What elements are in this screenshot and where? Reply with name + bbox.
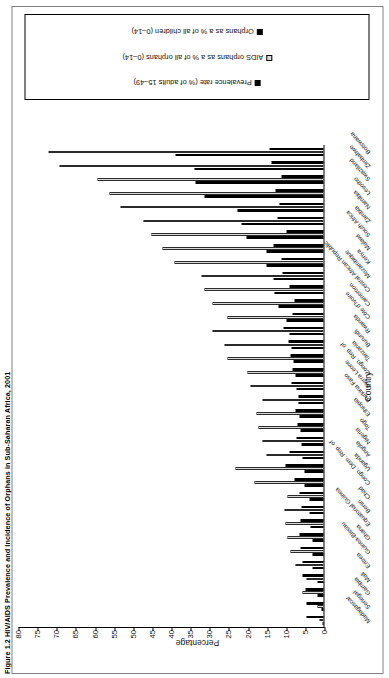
legend-swatch-icon: [256, 29, 262, 35]
bar-1: [250, 385, 323, 388]
y-axis-tick: [171, 627, 172, 631]
plot-wrapper: Percentage 05101520253035404550556065707…: [18, 105, 376, 665]
bar-group: [18, 283, 323, 297]
bar-0: [317, 581, 324, 584]
bar-group: [18, 310, 323, 324]
bar-group: [18, 489, 323, 503]
rotated-figure-canvas: Figure 1.2 HIV/AIDS Prevalence and Incid…: [0, 0, 389, 678]
bar-1: [306, 578, 323, 581]
bar-2: [294, 478, 323, 481]
y-tick-label: 75: [33, 630, 41, 638]
figure-page: Figure 1.2 HIV/AIDS Prevalence and Incid…: [0, 0, 389, 678]
bar-0: [291, 347, 323, 350]
bar-group: [18, 503, 323, 517]
y-axis-tick: [305, 627, 306, 631]
bar-1: [48, 151, 323, 154]
bar-1: [151, 233, 323, 236]
bar-1: [235, 467, 323, 470]
y-axis-tick: [56, 627, 57, 631]
bar-0: [312, 539, 323, 542]
bar-0: [246, 236, 323, 239]
y-tick-label: 70: [52, 630, 60, 638]
y-axis-tick: [133, 627, 134, 631]
bar-0: [278, 305, 323, 308]
bar-0: [293, 360, 323, 363]
bar-0: [286, 319, 323, 322]
bar-2: [277, 217, 323, 220]
bar-1: [212, 330, 323, 333]
bar-0: [312, 567, 323, 570]
bar-2: [295, 409, 323, 412]
bar-1: [287, 495, 323, 498]
y-tick-label: 20: [244, 630, 252, 638]
bar-0: [296, 388, 323, 391]
bar-2: [289, 451, 323, 454]
y-axis-tick: [114, 627, 115, 631]
bar-group: [18, 338, 323, 352]
bar-2: [297, 423, 323, 426]
bar-1: [224, 344, 323, 347]
legend-swatch-icon: [265, 54, 271, 60]
y-axis-tick: [209, 627, 210, 631]
bar-group: [18, 269, 323, 283]
y-tick-label: 40: [167, 630, 175, 638]
legend-label: Orphans as a % of all children (0–14): [131, 27, 253, 36]
bar-1: [254, 481, 323, 484]
legend-item-0: Prevalence rate (% of adults 15–49): [133, 78, 260, 87]
y-axis-tick: [190, 627, 191, 631]
bar-0: [322, 622, 323, 625]
bar-group: [18, 448, 323, 462]
bar-group: [18, 586, 323, 600]
bar-2: [301, 506, 323, 509]
bar-1: [287, 536, 323, 539]
y-tick-label: 45: [148, 630, 156, 638]
bar-group: [18, 173, 323, 187]
bar-group: [18, 187, 323, 201]
bar-group: [18, 393, 323, 407]
bar-group: [18, 365, 323, 379]
bar-group: [18, 434, 323, 448]
bar-2: [306, 602, 323, 605]
bar-group: [18, 228, 323, 242]
bar-2: [269, 148, 323, 151]
bar-2: [305, 588, 323, 591]
bar-0: [273, 278, 323, 281]
bar-group: [18, 379, 323, 393]
bar-2: [292, 313, 323, 316]
y-axis-tick: [248, 627, 249, 631]
bar-2: [286, 230, 323, 233]
bar-1: [143, 220, 323, 223]
legend-label: AIDS orphans as a % of all orphans (0–14…: [122, 53, 263, 62]
bar-group: [18, 517, 323, 531]
bar-0: [266, 250, 323, 253]
legend-swatch-icon: [254, 79, 260, 85]
figure-caption: Figure 1.2 HIV/AIDS Prevalence and Incid…: [2, 372, 11, 674]
y-tick-label: 50: [129, 630, 137, 638]
y-axis-tick: [228, 627, 229, 631]
bar-2: [279, 203, 323, 206]
bar-group: [18, 531, 323, 545]
bar-group: [18, 558, 323, 572]
bar-0: [241, 223, 323, 226]
bar-1: [120, 206, 323, 209]
bar-2: [271, 161, 323, 164]
bar-0: [298, 402, 323, 405]
y-tick-label: 15: [263, 630, 271, 638]
bar-0: [312, 553, 323, 556]
bar-2: [285, 464, 323, 467]
bar-group: [18, 255, 323, 269]
bar-1: [319, 619, 323, 622]
bar-1: [59, 165, 323, 168]
y-tick-label: 80: [14, 630, 22, 638]
bar-2: [302, 574, 323, 577]
bar-1: [201, 275, 323, 278]
bar-2: [288, 340, 323, 343]
bar-2: [292, 368, 323, 371]
bar-group: [18, 572, 323, 586]
y-axis-tick-labels: 05101520253035404550556065707580: [18, 629, 324, 655]
bar-group: [18, 599, 323, 613]
bar-0: [266, 264, 323, 267]
plot-area: [18, 145, 324, 628]
legend-item-2: Orphans as a % of all children (0–14): [131, 27, 262, 36]
bar-2: [298, 395, 323, 398]
